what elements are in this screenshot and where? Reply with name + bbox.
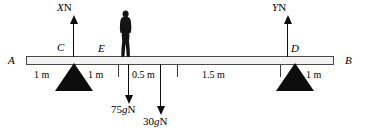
force-label-y: YN (272, 2, 286, 13)
distance-tick-1 (177, 65, 178, 77)
beam-endpoint-label-a: A (8, 55, 15, 66)
force-unit-x: N (64, 1, 72, 13)
force-arrow-x-head (70, 15, 78, 24)
beam-endpoint-label-b: B (345, 55, 352, 66)
force-arrow-beam-weight-head (157, 106, 165, 115)
force-arrow-x-shaft (73, 22, 74, 57)
force-arrow-person-weight-shaft (128, 64, 129, 99)
force-symbol-x: X (57, 1, 64, 13)
beam-force-diagram: A B C E D XN YN 75gN 30gN 1 m1 m0.5 m1.5… (0, 0, 365, 134)
point-label-e: E (98, 43, 105, 54)
distance-label-4: 1 m (306, 70, 321, 80)
force-label-x: XN (57, 2, 72, 13)
force-arrow-y-shaft (287, 22, 288, 57)
distance-tick-2 (280, 65, 281, 77)
distance-label-2: 0.5 m (132, 70, 155, 80)
force-coefficient-person: 75 (111, 103, 122, 115)
force-label-beam-weight: 30gN (143, 116, 167, 127)
person-silhouette (117, 10, 134, 57)
force-unit-y: N (278, 1, 286, 13)
distance-label-3: 1.5 m (202, 70, 225, 80)
distance-label-1: 1 m (88, 70, 103, 80)
distance-label-0: 1 m (34, 70, 49, 80)
force-arrow-y-head (284, 15, 292, 24)
force-unit-beam: N (160, 115, 168, 127)
force-coefficient-beam: 30 (143, 115, 154, 127)
point-label-c: C (57, 42, 64, 53)
force-arrow-beam-weight-shaft (160, 64, 161, 110)
distance-tick-0 (118, 65, 119, 77)
force-label-person-weight: 75gN (111, 104, 135, 115)
force-unit-person: N (128, 103, 136, 115)
point-label-d: D (291, 43, 299, 54)
